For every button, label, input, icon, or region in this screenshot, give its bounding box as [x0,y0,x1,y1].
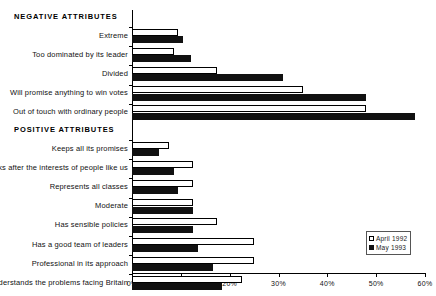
bar-may-1993 [132,94,366,101]
y-tick [129,65,132,66]
category-label: Professional in its approach [32,259,128,268]
bar-april-1992 [132,67,217,74]
bar-april-1992 [132,86,303,93]
y-tick [129,178,132,179]
bar-may-1993 [132,55,191,62]
bar-april-1992 [132,180,193,187]
bar-may-1993 [132,264,213,271]
x-tick-label-60%: 60% [418,280,433,287]
bar-april-1992 [132,105,366,112]
x-tick-label-50%: 50% [369,280,384,287]
bar-chart: 0%10%20%30%40%50%60% NEGATIVE ATTRIBUTES… [0,0,436,296]
bar-may-1993 [132,36,183,43]
bar-april-1992 [132,238,254,245]
category-label: Will promise anything to win votes [10,88,128,97]
legend-swatch-white-icon [369,236,374,241]
bar-may-1993 [132,226,193,233]
category-label: Represents all classes [50,182,128,191]
bar-may-1993 [132,207,193,214]
bar-may-1993 [132,168,174,175]
bar-may-1993 [132,187,178,194]
x-tick-30% [279,273,280,277]
legend-item-april-1992: April 1992 [369,234,407,243]
legend-label-may-1993: May 1993 [376,243,406,252]
bar-april-1992 [132,199,193,206]
category-label: Has a good team of leaders [32,240,128,249]
bar-april-1992 [132,257,254,264]
category-label: Looks after the interests of people like… [0,163,128,172]
category-label: Extreme [99,31,128,40]
bar-may-1993 [132,245,198,252]
x-tick-label-40%: 40% [320,280,335,287]
section-heading-positive: POSITIVE ATTRIBUTES [14,125,114,134]
section-heading-negative: NEGATIVE ATTRIBUTES [14,12,118,21]
bar-may-1993 [132,74,283,81]
chart-legend: April 1992 May 1993 [366,231,411,255]
x-tick-60% [425,273,426,277]
x-tick-label-30%: 30% [271,280,286,287]
bar-april-1992 [132,48,174,55]
legend-label-april-1992: April 1992 [376,234,407,243]
bar-april-1992 [132,161,193,168]
bar-april-1992 [132,142,169,149]
bar-may-1993 [132,149,159,156]
legend-item-may-1993: May 1993 [369,243,407,252]
bar-april-1992 [132,29,178,36]
category-label: Keeps all its promises [52,144,128,153]
bar-april-1992 [132,218,217,225]
legend-swatch-black-icon [369,245,374,250]
x-tick-40% [327,273,328,277]
category-label: Too dominated by its leader [32,50,128,59]
category-label: Divided [102,69,128,78]
bar-may-1993 [132,113,415,120]
bar-april-1992 [132,276,242,283]
category-label: Moderate [95,201,128,210]
category-label: Understands the problems facing Britain [0,278,128,287]
bar-may-1993 [132,283,222,290]
y-tick [129,274,132,275]
category-label: Has sensible policies [55,220,128,229]
x-tick-50% [376,273,377,277]
category-label: Out of touch with ordinary people [13,107,128,116]
